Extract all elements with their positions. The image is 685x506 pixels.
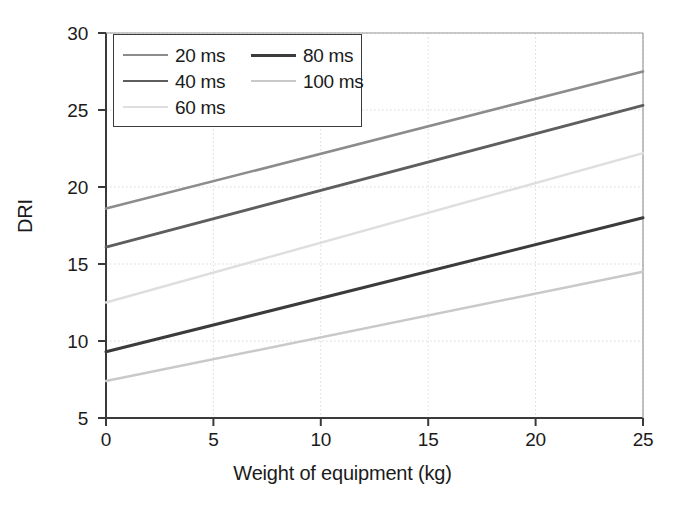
x-tick-text: 20 bbox=[506, 430, 566, 449]
y-tick-text: 20 bbox=[67, 178, 88, 197]
chart-figure: 51015202530 0510152025 DRI Weight of equ… bbox=[0, 0, 685, 506]
legend-line-swatch bbox=[251, 80, 296, 82]
legend-line-swatch bbox=[123, 54, 168, 56]
x-tick-text: 5 bbox=[183, 430, 243, 449]
legend-label: 20 ms bbox=[175, 46, 225, 65]
x-axis-title: Weight of equipment (kg) bbox=[0, 462, 685, 485]
x-tick-text: 0 bbox=[76, 430, 136, 449]
y-axis-title: DRI bbox=[0, 196, 74, 236]
y-tick-text: 5 bbox=[78, 409, 88, 428]
legend-entry-20-ms: 20 ms bbox=[114, 46, 242, 65]
legend-label: 40 ms bbox=[175, 72, 225, 91]
y-tick-text: 15 bbox=[67, 255, 88, 274]
legend-entry-40-ms: 40 ms bbox=[114, 72, 242, 91]
y-tick-text: 25 bbox=[67, 101, 88, 120]
legend-entry-80-ms: 80 ms bbox=[242, 46, 363, 65]
chart-legend: 20 ms80 ms40 ms100 ms60 ms bbox=[113, 34, 362, 127]
x-tick-text: 10 bbox=[291, 430, 351, 449]
legend-entry-60-ms: 60 ms bbox=[114, 98, 242, 117]
y-tick-text: 10 bbox=[67, 332, 88, 351]
legend-line-swatch bbox=[123, 106, 168, 108]
y-tick-text: 30 bbox=[67, 24, 88, 43]
y-axis-title-text: DRI bbox=[14, 176, 37, 256]
legend-line-swatch bbox=[251, 54, 296, 57]
legend-label: 100 ms bbox=[303, 72, 364, 91]
x-tick-text: 15 bbox=[398, 430, 458, 449]
legend-label: 60 ms bbox=[175, 98, 225, 117]
series-line-100-ms bbox=[106, 272, 643, 381]
legend-entry-100-ms: 100 ms bbox=[242, 72, 363, 91]
legend-label: 80 ms bbox=[303, 46, 353, 65]
legend-entries: 20 ms80 ms40 ms100 ms60 ms bbox=[114, 42, 361, 120]
legend-line-swatch bbox=[123, 80, 168, 82]
series-line-80-ms bbox=[106, 218, 643, 352]
x-tick-text: 25 bbox=[613, 430, 673, 449]
